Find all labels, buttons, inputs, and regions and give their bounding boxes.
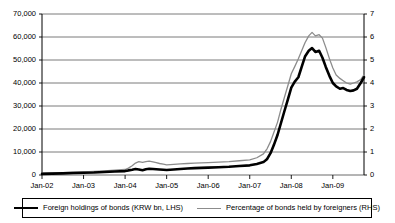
y-axis-right-tick-label: 2 — [370, 125, 374, 133]
y-axis-right-tick-label: 0 — [370, 171, 374, 179]
x-axis-tick-label: Jan-08 — [269, 182, 313, 190]
y-axis-right-tick-label: 3 — [370, 102, 374, 110]
y-axis-right-tick-label: 6 — [370, 33, 374, 41]
y-axis-right-tick-label: 5 — [370, 56, 374, 64]
x-axis-tick-label: Jan-07 — [228, 182, 272, 190]
y-axis-right-tick-label: 4 — [370, 79, 374, 87]
x-axis-tick-label: Jan-06 — [186, 182, 230, 190]
y-axis-left-tick-label: 10,000 — [0, 148, 36, 156]
legend-item-percentage-held: Percentage of bonds held by foreigners (… — [197, 204, 380, 212]
legend-swatch-black-line — [14, 207, 38, 209]
x-axis-tick-label: Jan-09 — [311, 182, 355, 190]
y-axis-left-tick-label: 50,000 — [0, 56, 36, 64]
y-axis-right-tick-label: 7 — [370, 10, 374, 18]
chart-legend: Foreign holdings of bonds (KRW bn, LHS) … — [22, 198, 372, 218]
y-axis-left-tick-label: 60,000 — [0, 33, 36, 41]
x-axis-tick-label: Jan-04 — [103, 182, 147, 190]
y-axis-left-tick-label: 0 — [0, 171, 36, 179]
x-axis-tick-label: Jan-02 — [20, 182, 64, 190]
y-axis-right-tick-label: 1 — [370, 148, 374, 156]
y-axis-left-tick-label: 40,000 — [0, 79, 36, 87]
y-axis-left-tick-label: 70,000 — [0, 10, 36, 18]
y-axis-left-tick-label: 20,000 — [0, 125, 36, 133]
legend-swatch-gray-line — [197, 208, 221, 209]
legend-label-foreign-holdings: Foreign holdings of bonds (KRW bn, LHS) — [43, 204, 183, 212]
chart-container: 010,00020,00030,00040,00050,00060,00070,… — [0, 0, 395, 223]
legend-label-percentage-held: Percentage of bonds held by foreigners (… — [226, 204, 380, 212]
legend-item-foreign-holdings: Foreign holdings of bonds (KRW bn, LHS) — [14, 204, 183, 212]
x-axis-tick-label: Jan-03 — [62, 182, 106, 190]
x-axis-tick-label: Jan-05 — [145, 182, 189, 190]
y-axis-left-tick-label: 30,000 — [0, 102, 36, 110]
